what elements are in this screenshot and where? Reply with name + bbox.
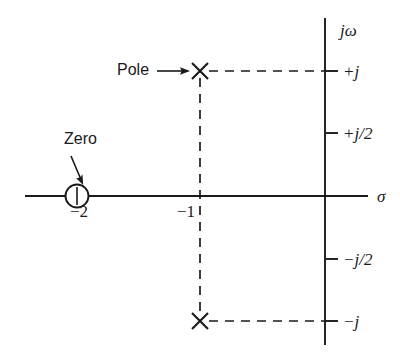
plot-canvas (0, 0, 400, 352)
tick-label-minus-j-half: −j/2 (343, 251, 372, 268)
tick-label-plus-j-half: +j/2 (343, 125, 372, 142)
tick-label-minus-two: −2 (70, 203, 88, 220)
zero-annotation-arrow (71, 156, 83, 185)
pole-zero-plot: jω σ +j +j/2 −j/2 −j −2 −1 Pole Zero (0, 0, 400, 352)
tick-label-minus-j: −j (343, 313, 359, 330)
sigma-axis-label: σ (377, 188, 385, 205)
tick-label-plus-j: +j (343, 63, 359, 80)
pole-annotation-label: Pole (117, 62, 149, 78)
zero-annotation-label: Zero (64, 131, 97, 147)
j-omega-axis-label: jω (340, 22, 357, 39)
pole-marker-lower (192, 313, 208, 329)
tick-label-minus-one: −1 (177, 203, 195, 220)
pole-annotation-arrow (157, 67, 190, 75)
pole-marker-upper (192, 63, 208, 79)
